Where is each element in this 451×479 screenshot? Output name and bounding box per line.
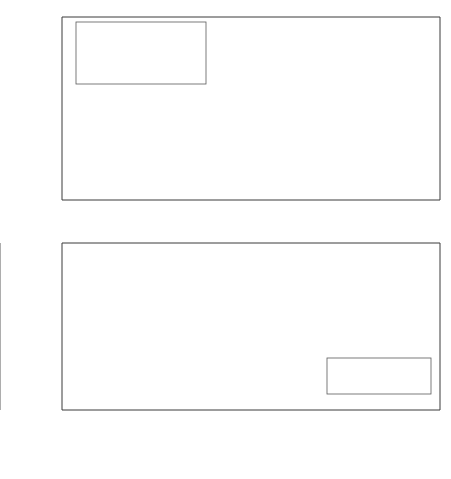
top-panel-nh3-concentrations xyxy=(22,17,440,200)
top-legend-frame xyxy=(76,22,206,84)
bottom-panel-normalized-ratio xyxy=(0,243,440,410)
bottom-legend-frame xyxy=(327,358,431,394)
top-legend[interactable] xyxy=(76,22,206,84)
dual-panel-chart xyxy=(0,0,451,479)
figure-container xyxy=(0,0,451,479)
bottom-legend[interactable] xyxy=(327,358,431,394)
